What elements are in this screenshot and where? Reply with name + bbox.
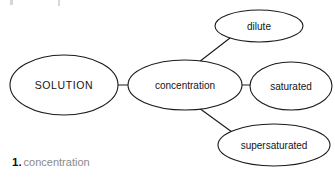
node-concentration-label: concentration	[155, 80, 215, 91]
node-supersaturated-label: supersaturated	[241, 140, 308, 151]
node-saturated-label: saturated	[270, 81, 312, 92]
edge-concentration-dilute	[199, 38, 230, 62]
caption-answer-text: concentration	[24, 156, 90, 168]
node-dilute-label: dilute	[247, 21, 271, 32]
diagram-screen: SOLUTION concentration dilute saturated …	[0, 0, 335, 183]
edge-concentration-supersaturated	[199, 108, 232, 132]
caption-number: 1.	[12, 156, 22, 168]
node-solution-label: SOLUTION	[35, 79, 93, 91]
answer-caption: 1.concentration	[12, 157, 90, 169]
